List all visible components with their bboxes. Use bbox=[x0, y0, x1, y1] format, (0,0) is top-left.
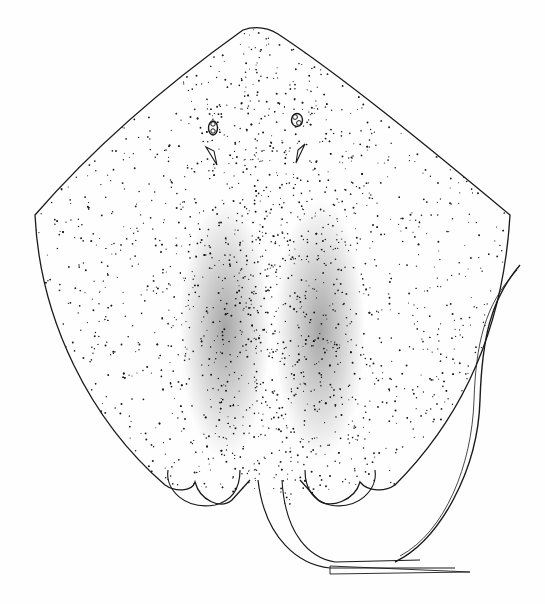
body-shading-left bbox=[180, 200, 270, 460]
pelvic-fin-left bbox=[168, 470, 240, 506]
stingray-illustration bbox=[0, 0, 545, 604]
stingray-drawing bbox=[0, 0, 545, 604]
eye-right bbox=[292, 114, 303, 127]
body-shading-right bbox=[275, 200, 365, 460]
pelvic-fin-right bbox=[305, 470, 375, 506]
tail-spine bbox=[330, 566, 470, 574]
tail bbox=[258, 480, 455, 568]
spiracle-left bbox=[206, 147, 217, 165]
tail-whip bbox=[395, 265, 520, 562]
tail-whip-inner bbox=[400, 270, 517, 556]
spiracle-right bbox=[296, 144, 305, 163]
stipple-texture bbox=[29, 24, 515, 505]
disc-outline bbox=[35, 28, 510, 504]
eye-left bbox=[209, 121, 218, 135]
tail-inner bbox=[282, 480, 420, 562]
